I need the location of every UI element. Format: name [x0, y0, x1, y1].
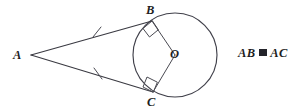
vertex-label-a: A — [13, 49, 21, 62]
statement-right-term: AC — [270, 46, 287, 61]
center-label-o: O — [170, 48, 179, 61]
statement-left-term: AB — [238, 46, 255, 61]
congruence-statement: AB AC — [238, 46, 288, 61]
geometry-figure: A B C O AB AC — [0, 0, 298, 112]
vertex-label-c: C — [147, 96, 155, 109]
segment-ac — [31, 55, 153, 92]
vertex-label-b: B — [146, 4, 154, 17]
congruent-to-icon — [259, 49, 267, 56]
tick-mark-ac — [94, 68, 102, 79]
